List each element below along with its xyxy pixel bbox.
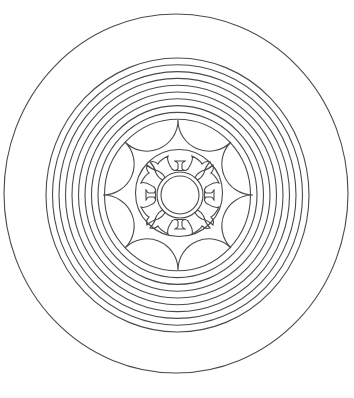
center-outer-circle	[157, 172, 203, 218]
ring	[59, 72, 296, 319]
eight-point-star	[103, 120, 253, 270]
ring	[53, 65, 303, 325]
ring	[105, 119, 251, 271]
ring	[66, 78, 290, 311]
mandala-drawing	[0, 0, 354, 398]
concentric-rings	[46, 58, 309, 332]
ring	[98, 112, 257, 277]
center-inner-circle	[161, 176, 199, 214]
ring	[92, 106, 264, 285]
lotus-motifs	[141, 156, 219, 234]
